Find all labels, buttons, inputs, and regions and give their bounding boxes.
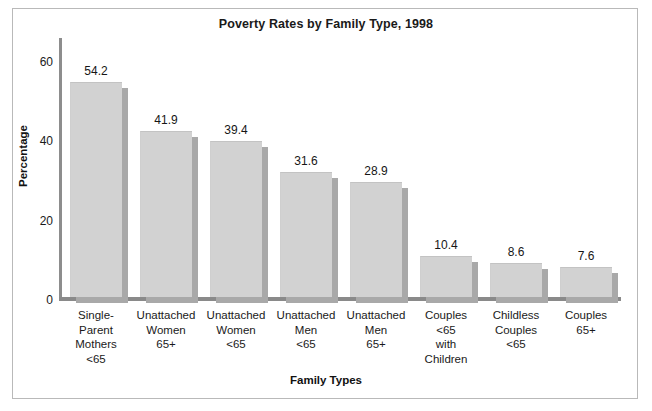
bar[interactable]: [560, 267, 612, 297]
bar-value-label: 8.6: [476, 245, 556, 259]
bar-value-label: 10.4: [406, 238, 486, 252]
x-category-label-line: Couples: [542, 308, 630, 323]
x-category-label: Couples65+: [542, 308, 630, 337]
y-tick-label: 40: [13, 135, 53, 147]
bar-value-label: 7.6: [546, 249, 626, 263]
chart-figure: Poverty Rates by Family Type, 1998 Perce…: [0, 0, 652, 411]
bar-value-label: 31.6: [266, 154, 346, 168]
x-category-label-line: 65+: [542, 323, 630, 338]
bar[interactable]: [420, 256, 472, 297]
bar-value-label: 39.4: [196, 123, 276, 137]
x-axis-title: Family Types: [0, 374, 652, 386]
bar-value-label: 28.9: [336, 164, 416, 178]
y-tick-label: 0: [13, 294, 53, 306]
bar-value-label: 54.2: [56, 64, 136, 78]
y-tick-label: 60: [13, 56, 53, 68]
bar-value-label: 41.9: [126, 113, 206, 127]
bar[interactable]: [70, 82, 122, 297]
bar[interactable]: [490, 263, 542, 297]
y-tick-label: 20: [13, 215, 53, 227]
bar[interactable]: [210, 141, 262, 297]
x-category-label-line: Children: [402, 352, 490, 367]
bar[interactable]: [280, 172, 332, 297]
bar[interactable]: [140, 131, 192, 297]
chart-title: Poverty Rates by Family Type, 1998: [0, 17, 652, 31]
bar[interactable]: [350, 182, 402, 297]
x-category-label-line: <65: [52, 352, 140, 367]
x-category-label-line: <65: [472, 337, 560, 352]
y-axis-title: Percentage: [17, 111, 29, 201]
